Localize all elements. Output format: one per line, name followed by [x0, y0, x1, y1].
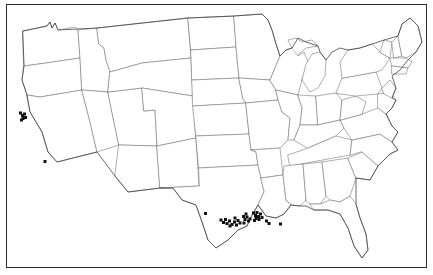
state-minnesota [234, 14, 280, 80]
state-nebraska [192, 78, 246, 106]
occurrence-marker [229, 225, 232, 228]
state-kansas [193, 103, 249, 136]
state-arizona [115, 145, 160, 192]
state-oklahoma [196, 134, 258, 168]
state-south-dakota [191, 47, 239, 80]
occurrence-marker [228, 220, 231, 223]
occurrence-marker [259, 213, 262, 216]
occurrence-marker [249, 218, 252, 221]
occurrence-marker [279, 223, 282, 226]
occurrence-marker [222, 221, 225, 224]
occurrence-marker [233, 221, 236, 224]
occurrence-marker [235, 224, 238, 227]
occurrence-marker [24, 116, 27, 119]
occurrence-marker [246, 216, 249, 219]
state-maine [398, 18, 422, 58]
occurrence-marker [261, 216, 264, 219]
state-mississippi [283, 164, 306, 206]
us-map-svg [0, 0, 433, 275]
occurrence-marker [268, 222, 271, 225]
state-new-mexico [157, 138, 199, 188]
state-north-dakota [188, 16, 236, 50]
occurrence-marker [23, 113, 26, 116]
occurrence-marker [234, 217, 237, 220]
occurrence-marker [239, 222, 242, 225]
occurrence-marker [44, 160, 47, 163]
occurrence-marker [258, 218, 261, 221]
occurrence-marker [224, 218, 227, 221]
occurrence-marker [254, 214, 257, 217]
state-florida [310, 196, 368, 258]
distribution-map-figure [0, 0, 433, 275]
occurrence-marker [204, 212, 207, 215]
occurrence-marker [243, 222, 246, 225]
occurrence-marker [20, 119, 23, 122]
occurrence-marker [245, 213, 248, 216]
occurrence-marker [253, 219, 256, 222]
occurrence-marker [256, 211, 259, 214]
